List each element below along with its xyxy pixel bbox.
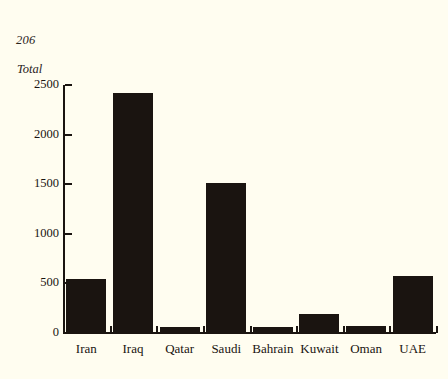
y-axis-tick-label: 1000 <box>15 227 59 240</box>
x-axis-tick <box>203 326 205 333</box>
x-axis-label: Qatar <box>156 341 203 357</box>
y-axis-tick <box>65 233 72 235</box>
x-axis-tick <box>63 326 65 333</box>
x-axis-label: Bahrain <box>250 341 297 357</box>
x-axis-tick <box>343 326 345 333</box>
x-axis-tick <box>389 326 391 333</box>
bar-chart-plot: 05001000150020002500 IranIraqQatarSaudiB… <box>0 0 448 379</box>
y-axis-tick-label: 2500 <box>15 78 59 91</box>
bar <box>346 326 386 333</box>
bar <box>299 314 339 333</box>
x-axis-label: Oman <box>343 341 390 357</box>
y-axis-tick-label: 500 <box>15 276 59 289</box>
x-axis-label: Iran <box>63 341 110 357</box>
y-axis-tick-label: 1500 <box>15 177 59 190</box>
x-axis-label: Saudi <box>203 341 250 357</box>
x-axis-label: Iraq <box>110 341 157 357</box>
y-axis-tick <box>65 183 72 185</box>
y-axis-tick-label: 2000 <box>15 128 59 141</box>
y-axis-tick-label: 0 <box>15 326 59 339</box>
y-axis-tick <box>65 134 72 136</box>
x-axis-tick <box>110 326 112 333</box>
bar <box>206 183 246 333</box>
bar <box>113 93 153 333</box>
x-axis-tick <box>250 326 252 333</box>
bar <box>253 327 293 333</box>
y-axis-spine <box>63 85 65 334</box>
x-axis-tick <box>436 326 438 333</box>
bar <box>160 327 200 333</box>
bar <box>393 276 433 333</box>
x-axis-label: UAE <box>389 341 436 357</box>
x-axis-label: Kuwait <box>296 341 343 357</box>
x-axis-tick <box>156 326 158 333</box>
bar <box>66 279 106 333</box>
y-axis-tick <box>65 84 72 86</box>
x-axis-tick <box>296 326 298 333</box>
